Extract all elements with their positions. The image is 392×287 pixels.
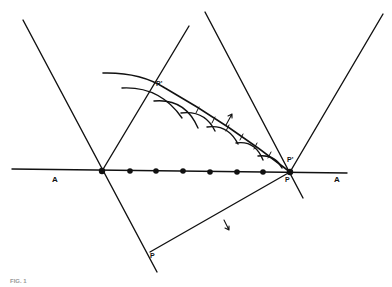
label-p-bottom: P: [150, 252, 155, 259]
left-v-right-arm: [102, 26, 189, 171]
arrow-down-icon: [224, 220, 229, 230]
arc-4: [207, 127, 238, 144]
label-p-right: P: [285, 176, 290, 183]
label-a-left: A: [52, 175, 58, 184]
geometric-figure: A A P' P' P P FIG. 1: [0, 0, 392, 287]
dot: [234, 169, 240, 175]
bottom-connector-line: [150, 172, 290, 252]
arrow-up-icon: [226, 114, 232, 125]
right-v-right-arm: [290, 14, 383, 172]
left-node: [99, 168, 105, 174]
label-p-prime-left: P': [156, 80, 163, 87]
dot: [180, 168, 186, 174]
figure-caption: FIG. 1: [10, 278, 27, 284]
arc-2: [154, 101, 198, 128]
arc-5: [236, 143, 263, 160]
dot: [260, 169, 266, 175]
right-node-p: [287, 169, 293, 175]
left-v-left-arm: [23, 20, 157, 272]
dot: [153, 168, 159, 174]
label-a-right: A: [334, 175, 340, 184]
diagram-canvas: A A P' P' P P FIG. 1: [0, 0, 392, 287]
label-p-prime-right: P': [287, 156, 294, 163]
dot: [207, 169, 213, 175]
axis-line: [12, 169, 347, 173]
dot: [127, 168, 133, 174]
